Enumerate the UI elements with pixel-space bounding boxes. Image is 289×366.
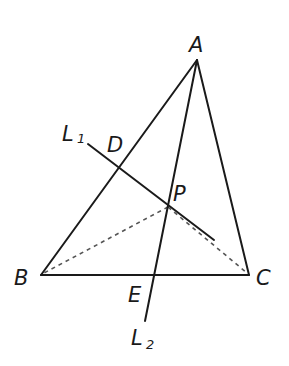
label-e: E — [128, 283, 142, 307]
segment-ac — [197, 60, 249, 275]
line-l1 — [88, 144, 214, 240]
label-l1: L 1 — [62, 122, 85, 146]
label-l2-main: L — [131, 326, 143, 350]
label-l2: L 2 — [131, 326, 154, 352]
label-p: P — [173, 182, 186, 206]
label-b: B — [14, 266, 28, 290]
segment-pb-dashed — [44, 207, 168, 273]
label-l1-main: L — [62, 122, 74, 146]
label-l2-subscript: 2 — [146, 337, 154, 352]
geometry-diagram: A B C D E P L 1 L 2 — [0, 0, 289, 366]
label-d: D — [107, 133, 123, 157]
label-a: A — [187, 33, 203, 57]
label-c: C — [256, 266, 271, 290]
label-l1-subscript: 1 — [77, 131, 85, 146]
line-l2 — [145, 60, 197, 321]
